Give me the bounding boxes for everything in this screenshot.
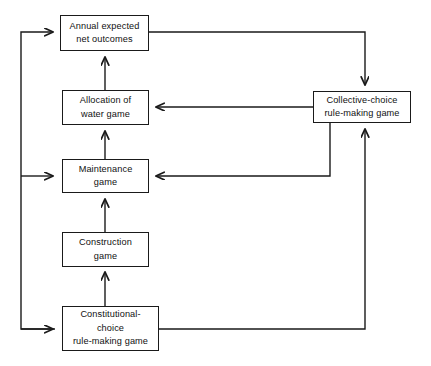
edge-feedback-spine bbox=[21, 32, 55, 329]
node-constitutional-choice-rule-making-game[interactable]: Constitutional- choice rule-making game bbox=[62, 306, 159, 351]
node-label-line: Maintenance bbox=[79, 163, 133, 177]
node-label-line: Collective-choice bbox=[326, 94, 397, 108]
node-allocation-of-water-game[interactable]: Allocation of water game bbox=[62, 90, 149, 125]
edge-collective-to-maintenance bbox=[156, 123, 330, 176]
node-construction-game[interactable]: Construction game bbox=[62, 232, 149, 267]
edge-annual-to-collective bbox=[149, 32, 365, 85]
edge-constitutional-to-collective bbox=[159, 129, 365, 329]
node-label-line: water game bbox=[81, 108, 130, 122]
node-label-line: Constitutional- bbox=[80, 308, 140, 322]
node-label-line: choice bbox=[97, 322, 124, 336]
node-label-line: Allocation of bbox=[80, 94, 131, 108]
nested-games-diagram: Annual expected net outcomes Allocation … bbox=[0, 0, 431, 366]
node-label-line: net outcomes bbox=[76, 33, 132, 47]
node-annual-expected-net-outcomes[interactable]: Annual expected net outcomes bbox=[60, 15, 149, 51]
node-maintenance-game[interactable]: Maintenance game bbox=[62, 159, 149, 193]
node-label-line: game bbox=[94, 176, 117, 190]
node-label-line: rule-making game bbox=[324, 107, 399, 121]
node-label-line: Annual expected bbox=[70, 20, 140, 34]
node-collective-choice-rule-making-game[interactable]: Collective-choice rule-making game bbox=[313, 91, 411, 123]
node-label-line: game bbox=[94, 250, 117, 264]
node-label-line: Construction bbox=[79, 236, 132, 250]
node-label-line: rule-making game bbox=[73, 335, 148, 349]
